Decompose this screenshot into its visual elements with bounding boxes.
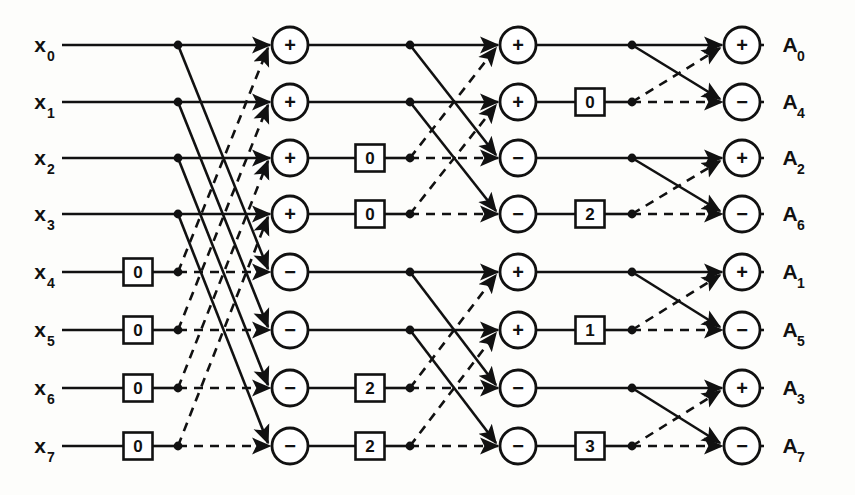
twiddle-factor-box[interactable]: 0 xyxy=(124,433,153,460)
edge-cross-dashed xyxy=(632,48,720,102)
operator-symbol: + xyxy=(284,91,296,113)
input-label-subscript: 7 xyxy=(47,449,55,465)
branch-dot xyxy=(406,442,415,451)
twiddle-factor-box[interactable]: 0 xyxy=(124,375,153,402)
output-label: A0 xyxy=(782,33,805,64)
output-label-subscript: 4 xyxy=(797,105,805,121)
adder-node[interactable]: + xyxy=(272,27,308,63)
subtractor-node[interactable]: − xyxy=(724,196,760,232)
edge-cross-dashed xyxy=(410,333,496,446)
branch-dot xyxy=(174,268,183,277)
subtractor-node[interactable]: − xyxy=(272,428,308,464)
branch-dot xyxy=(406,41,415,50)
twiddle-box-value: 0 xyxy=(133,379,142,398)
output-label-subscript: 5 xyxy=(797,333,805,349)
subtractor-node[interactable]: − xyxy=(500,428,536,464)
edge-cross-dashed xyxy=(410,275,496,388)
adder-node[interactable]: + xyxy=(500,84,536,120)
flow-graph-canvas: 000000220213 ++++−−−−++−−++−−+−+−+−+− x0… xyxy=(0,0,855,495)
twiddle-factor-box[interactable]: 0 xyxy=(576,89,605,116)
input-label-subscript: 4 xyxy=(47,275,55,291)
output-label: A7 xyxy=(782,434,805,465)
twiddle-box-value: 0 xyxy=(365,149,374,168)
adder-node[interactable]: + xyxy=(500,312,536,348)
branch-dot xyxy=(174,384,183,393)
subtractor-node[interactable]: − xyxy=(500,140,536,176)
twiddle-factor-box[interactable]: 0 xyxy=(356,145,385,172)
edge-cross-solid xyxy=(632,158,720,211)
adder-node[interactable]: + xyxy=(500,254,536,290)
edge-cross-dashed xyxy=(632,161,720,214)
input-label-subscript: 2 xyxy=(47,161,55,177)
edge-cross-solid xyxy=(410,330,496,443)
subtractor-node[interactable]: − xyxy=(500,370,536,406)
branch-dot xyxy=(406,268,415,277)
operator-node-layer: ++++−−−−++−−++−−+−+−+−+− xyxy=(272,27,760,464)
branch-dot xyxy=(628,442,637,451)
subtractor-node[interactable]: − xyxy=(272,254,308,290)
operator-symbol: − xyxy=(284,377,296,399)
output-label: A6 xyxy=(782,202,805,233)
input-label-base: x xyxy=(34,33,46,56)
twiddle-box-value: 2 xyxy=(365,437,374,456)
adder-node[interactable]: + xyxy=(724,140,760,176)
twiddle-box-value: 0 xyxy=(133,437,142,456)
twiddle-factor-box[interactable]: 2 xyxy=(576,201,605,228)
adder-node[interactable]: + xyxy=(272,196,308,232)
subtractor-node[interactable]: − xyxy=(724,428,760,464)
output-label-base: A xyxy=(782,90,797,113)
adder-node[interactable]: + xyxy=(500,27,536,63)
input-label-base: x xyxy=(34,376,46,399)
branch-dot xyxy=(174,442,183,451)
output-label-base: A xyxy=(782,260,797,283)
subtractor-node[interactable]: − xyxy=(724,312,760,348)
edge-cross-solid xyxy=(632,272,720,327)
output-label: A3 xyxy=(782,376,805,407)
input-label: x3 xyxy=(34,202,55,233)
operator-symbol: + xyxy=(284,203,296,225)
branch-dot xyxy=(174,98,183,107)
branch-dot xyxy=(628,326,637,335)
branch-dot xyxy=(406,154,415,163)
branch-dot xyxy=(174,326,183,335)
operator-symbol: + xyxy=(736,377,748,399)
output-label-base: A xyxy=(782,434,797,457)
twiddle-factor-box[interactable]: 2 xyxy=(356,375,385,402)
branch-dot xyxy=(628,384,637,393)
operator-symbol: − xyxy=(736,91,748,113)
input-label: x1 xyxy=(34,90,55,121)
input-label: x5 xyxy=(34,318,55,349)
output-label-subscript: 0 xyxy=(797,48,805,64)
twiddle-box-value: 0 xyxy=(365,205,374,224)
adder-node[interactable]: + xyxy=(724,254,760,290)
output-label: A5 xyxy=(782,318,805,349)
output-label-base: A xyxy=(782,33,797,56)
edge-cross-solid xyxy=(410,102,496,211)
subtractor-node[interactable]: − xyxy=(724,84,760,120)
twiddle-factor-box[interactable]: 2 xyxy=(356,433,385,460)
adder-node[interactable]: + xyxy=(724,27,760,63)
operator-symbol: + xyxy=(284,34,296,56)
twiddle-factor-box[interactable]: 0 xyxy=(124,259,153,286)
subtractor-node[interactable]: − xyxy=(500,196,536,232)
twiddle-factor-box[interactable]: 0 xyxy=(356,201,385,228)
subtractor-node[interactable]: − xyxy=(272,370,308,406)
adder-node[interactable]: + xyxy=(272,84,308,120)
operator-symbol: − xyxy=(736,319,748,341)
twiddle-factor-box[interactable]: 3 xyxy=(576,433,605,460)
twiddle-factor-box[interactable]: 1 xyxy=(576,317,605,344)
twiddle-box-value: 2 xyxy=(585,205,594,224)
edge-cross-solid xyxy=(410,45,496,155)
edge-cross-dashed xyxy=(410,105,496,214)
twiddle-box-value: 1 xyxy=(585,321,594,340)
input-label-base: x xyxy=(34,318,46,341)
output-label: A1 xyxy=(782,260,805,291)
twiddle-factor-box[interactable]: 0 xyxy=(124,317,153,344)
twiddle-box-value: 3 xyxy=(585,437,594,456)
branch-dot xyxy=(406,326,415,335)
adder-node[interactable]: + xyxy=(724,370,760,406)
branch-dot xyxy=(174,154,183,163)
adder-node[interactable]: + xyxy=(272,140,308,176)
branch-dot xyxy=(406,210,415,219)
subtractor-node[interactable]: − xyxy=(272,312,308,348)
